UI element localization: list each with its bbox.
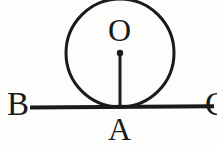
point-label-b: B	[7, 88, 29, 121]
center-point-dot	[117, 50, 123, 56]
point-label-a: A	[108, 113, 131, 145]
point-label-o: O	[108, 14, 131, 46]
geometry-figure: O A B C	[0, 0, 217, 145]
point-label-c: C	[205, 88, 217, 121]
tangent-line-bc	[30, 106, 214, 107]
